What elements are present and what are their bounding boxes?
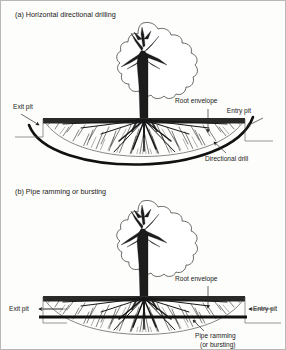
diagram-svg: (a) Horizontal directional drilling Exit…	[1, 1, 286, 350]
panel-a-root-envelope-label: Root envelope	[175, 97, 218, 105]
figure-container: (a) Horizontal directional drilling Exit…	[0, 0, 286, 350]
panel-b-root-envelope-label: Root envelope	[175, 275, 218, 283]
pipe-ramming-leader-b	[193, 320, 204, 331]
panel-b-exit-pit-label: Exit pit	[9, 305, 29, 313]
panel-a-group: (a) Horizontal directional drilling Exit…	[13, 10, 273, 165]
panel-a-caption: (a) Horizontal directional drilling	[15, 10, 116, 19]
panel-a-entry-pit-label: Entry pit	[227, 107, 251, 115]
panel-b-group: (b) Pipe ramming or bursting Exit pit En…	[9, 187, 281, 349]
panel-b-method-label-line2: (or bursting)	[200, 341, 236, 349]
panel-a-exit-pit-label: Exit pit	[13, 103, 33, 111]
panel-b-entry-pit-label: Entry pit	[253, 305, 277, 313]
panel-a-directional-drill-label: Directional drill	[205, 155, 249, 162]
panel-b-caption: (b) Pipe ramming or bursting	[15, 187, 106, 196]
panel-b-method-label-line1: Pipe ramming	[195, 332, 236, 340]
exit-pit-leader-a	[21, 114, 39, 125]
